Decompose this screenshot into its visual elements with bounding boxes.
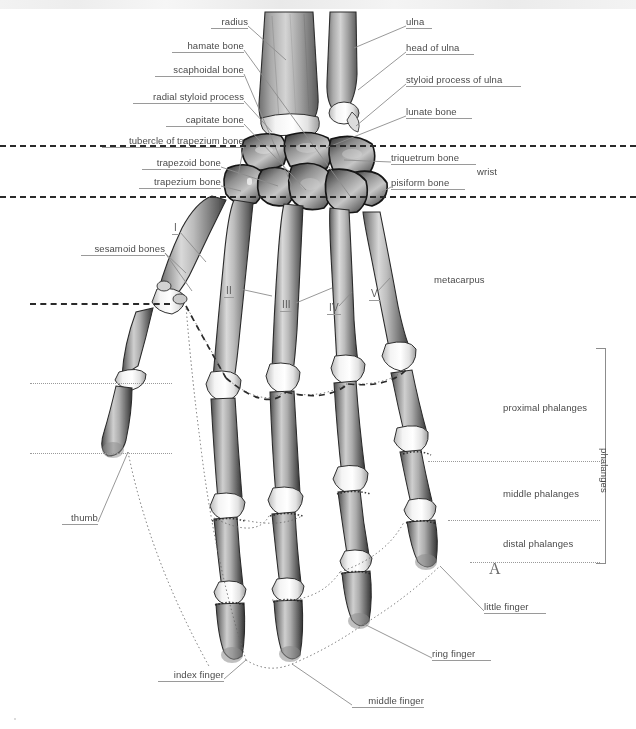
label-ulna: ulna xyxy=(406,16,432,29)
label-little-finger: little finger xyxy=(484,601,546,614)
numeral-metacarpal-IV: IV xyxy=(327,302,341,315)
label-trapezium-bone: trapezium bone xyxy=(139,176,221,189)
label-thumb: thumb xyxy=(62,512,98,525)
label-middle-finger: middle finger xyxy=(352,695,424,708)
label-capitate-bone: capitate bone xyxy=(166,114,244,127)
figure-canvas: radiushamate bonescaphoidal boneradial s… xyxy=(0,0,636,729)
label-sesamoid-bones: sesamoid bones xyxy=(81,243,165,256)
numeral-metacarpal-I: I xyxy=(172,222,179,235)
label-styloid-process-of-ulna: styloid process of ulna xyxy=(406,74,521,87)
label-radial-styloid-process: radial styloid process xyxy=(133,91,244,104)
panel-letter-a: A xyxy=(489,563,501,574)
numeral-metacarpal-III: III xyxy=(280,299,293,312)
label-ring-finger: ring finger xyxy=(432,648,491,661)
label-scaphoidal-bone: scaphoidal bone xyxy=(155,64,244,77)
label-phalanges-bracket: phalanges xyxy=(599,448,610,493)
label-trapezoid-bone: trapezoid bone xyxy=(142,157,221,170)
divider-thumb-mcp xyxy=(30,303,170,305)
numeral-metacarpal-V: V xyxy=(369,288,380,301)
label-hamate-bone: hamate bone xyxy=(172,40,244,53)
label-proximal-phalanges: proximal phalanges xyxy=(503,402,587,413)
label-triquetrum-bone: triquetrum bone xyxy=(391,152,476,165)
label-tubercle-of-trapezium: tubercle of trapezium bone xyxy=(102,135,244,148)
label-wrist: wrist xyxy=(477,166,497,177)
divider-middle-distal xyxy=(448,520,600,521)
leader-lines-overlay xyxy=(0,0,636,729)
divider-thumb-distal xyxy=(30,453,172,454)
label-pisiform-bone: pisiform bone xyxy=(391,177,465,190)
label-lunate-bone: lunate bone xyxy=(406,106,472,119)
label-metacarpus: metacarpus xyxy=(434,274,485,285)
label-index-finger: index finger xyxy=(158,669,224,682)
label-middle-phalanges: middle phalanges xyxy=(503,488,579,499)
label-head-of-ulna: head of ulna xyxy=(406,42,474,55)
label-distal-phalanges: distal phalanges xyxy=(503,538,573,549)
divider-thumb-proximal xyxy=(30,383,172,384)
divider-proximal-middle xyxy=(428,461,600,462)
divider-wrist-bottom xyxy=(0,196,636,198)
divider-wrist-top xyxy=(0,145,636,147)
numeral-metacarpal-II: II xyxy=(224,285,234,298)
label-radius: radius xyxy=(211,16,248,29)
